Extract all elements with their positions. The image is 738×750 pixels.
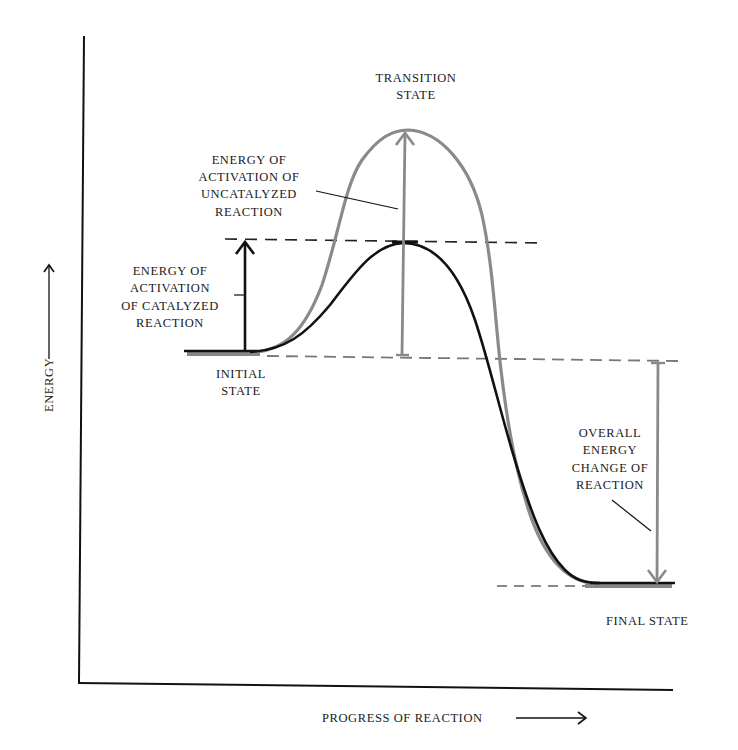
energy-diagram: ENERGY PROGRESS OF REACTION — [0, 0, 738, 750]
overall-arrow-shaft — [657, 363, 658, 580]
ea-catalyzed-line-1: ENERGY OF — [133, 264, 208, 278]
overall-change-line-4: REACTION — [576, 478, 644, 492]
transition-state-line-1: TRANSITION — [376, 71, 457, 85]
transition-state-line-2: STATE — [396, 88, 436, 102]
y-axis-line — [79, 36, 84, 683]
label-overall-change: OVERALL ENERGY CHANGE OF REACTION — [572, 426, 649, 492]
dashed-line-catalyzed-peak — [225, 239, 545, 243]
ea-uncatalyzed-line-1: ENERGY OF — [212, 153, 287, 167]
y-axis-label: ENERGY — [42, 358, 56, 412]
initial-state-line-1: INITIAL — [216, 367, 266, 381]
dashed-line-initial-level — [267, 356, 680, 361]
initial-state-line-2: STATE — [221, 384, 261, 398]
x-axis-line — [78, 683, 673, 690]
label-ea-uncatalyzed: ENERGY OF ACTIVATION OF UNCATALYZED REAC… — [199, 153, 300, 219]
leader-overall-change — [612, 500, 651, 531]
catalyzed-curve — [250, 243, 600, 583]
axes — [78, 36, 673, 690]
leader-ea-uncatalyzed — [316, 191, 398, 209]
label-transition-state: TRANSITION STATE — [376, 71, 457, 102]
ea-uncatalyzed-line-4: REACTION — [215, 205, 283, 219]
x-axis-label: PROGRESS OF REACTION — [322, 711, 483, 725]
ea-uncatalyzed-line-2: ACTIVATION OF — [199, 170, 300, 184]
reference-lines — [225, 239, 680, 586]
label-initial-state: INITIAL STATE — [216, 367, 266, 398]
ea-uncatalyzed-line-3: UNCATALYZED — [201, 187, 297, 201]
uncatalyzed-arrow-shaft — [402, 134, 405, 355]
label-ea-catalyzed: ENERGY OF ACTIVATION OF CATALYZED REACTI… — [121, 264, 219, 330]
overall-change-line-1: OVERALL — [579, 426, 642, 440]
overall-change-line-3: CHANGE OF — [572, 461, 649, 475]
catalyzed-activation-arrow — [236, 242, 254, 351]
final-state-label: FINAL STATE — [606, 614, 689, 628]
x-axis-label-group: PROGRESS OF REACTION — [322, 711, 586, 725]
ea-catalyzed-line-4: REACTION — [136, 316, 204, 330]
y-axis-label-group: ENERGY — [42, 265, 56, 412]
ea-catalyzed-line-3: OF CATALYZED — [121, 299, 219, 313]
overall-change-arrow — [648, 363, 666, 582]
ea-catalyzed-line-2: ACTIVATION — [130, 281, 210, 295]
overall-change-line-2: ENERGY — [583, 443, 637, 457]
